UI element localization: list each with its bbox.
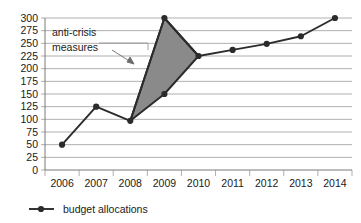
x-axis-tick-label: 2007 [84, 177, 108, 189]
data-point-marker [93, 104, 99, 110]
x-axis-labels-group: 200620072008200920102011201220132014 [50, 177, 346, 189]
y-axis-tick-label: 125 [20, 100, 38, 112]
line-chart: 0255075100125150175200225250275300 20062… [0, 0, 361, 223]
y-axis-tick-label: 0 [32, 164, 38, 176]
x-axis-tick-label: 2008 [119, 177, 143, 189]
data-point-marker [127, 118, 133, 124]
data-point-marker [332, 15, 338, 21]
chart-container: 0255075100125150175200225250275300 20062… [0, 0, 361, 223]
data-point-marker [161, 15, 167, 21]
x-axis-tick-label: 2011 [221, 177, 244, 189]
legend-marker-swatch [38, 206, 44, 212]
y-axis-tick-label: 300 [20, 12, 38, 24]
x-axis-tick-label: 2012 [255, 177, 279, 189]
y-axis-tick-label: 250 [20, 37, 38, 49]
x-axis-tick-label: 2009 [153, 177, 177, 189]
data-point-marker [264, 41, 270, 47]
y-axis-tick-label: 275 [20, 24, 38, 36]
y-axis-tick-label: 200 [20, 62, 38, 74]
data-point-marker [59, 142, 65, 148]
x-axis-tick-label: 2006 [50, 177, 74, 189]
y-axis-tick-label: 25 [26, 151, 38, 163]
annotation-line-1: anti-crisis [52, 26, 96, 38]
annotation-line-2: measures [52, 41, 98, 53]
y-axis-tick-label: 100 [20, 113, 38, 125]
x-axis-tick-label: 2013 [289, 177, 313, 189]
y-axis-tick-label: 75 [26, 126, 38, 138]
y-axis-tick-label: 225 [20, 50, 38, 62]
y-axis-tick-label: 175 [20, 75, 38, 87]
x-axis-tick-label: 2010 [187, 177, 211, 189]
legend-item-label: budget allocations [63, 203, 148, 215]
x-axis-tick-label: 2014 [323, 177, 347, 189]
data-point-marker [161, 91, 167, 97]
y-axis-tick-label: 50 [26, 138, 38, 150]
y-axis-tick-label: 150 [20, 88, 38, 100]
data-point-marker [298, 33, 304, 39]
data-point-marker [230, 47, 236, 53]
data-point-marker [195, 53, 201, 59]
